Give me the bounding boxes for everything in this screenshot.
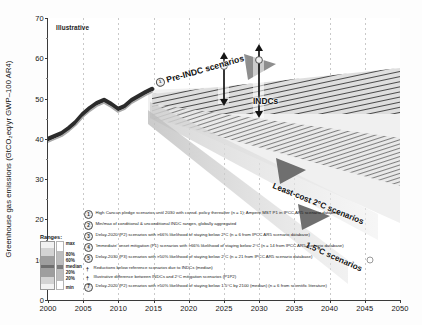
y-tick-60: 60 bbox=[35, 54, 44, 63]
ranges-gradient-swatch bbox=[40, 241, 55, 290]
footnote-text-3: Delay-2020 (P2) scenarios with >66% like… bbox=[96, 232, 310, 237]
y-tick-20: 20 bbox=[35, 215, 44, 224]
footnote-text-6: Reductions below reference scenarios due… bbox=[94, 265, 213, 270]
ranges-tick-20a: 20% bbox=[66, 270, 75, 275]
illustrative-tag: Illustrative bbox=[56, 24, 89, 31]
footnote-item: † Reductions below reference scenarios d… bbox=[84, 265, 404, 272]
x-tick-2020: 2020 bbox=[180, 304, 197, 313]
footnote-marker-6: † bbox=[84, 265, 91, 272]
x-tick-2040: 2040 bbox=[321, 304, 338, 313]
footnote-text-8: Delay-2020 (P2) scenarios with >50% like… bbox=[96, 283, 327, 288]
ranges-tick-20b: 20% bbox=[66, 276, 75, 281]
annotation-indcs-label: INDCs bbox=[253, 96, 278, 106]
footnote-text-7: Illustrative difference between INDCs an… bbox=[94, 274, 237, 279]
footnote-marker-2: 2 bbox=[84, 221, 93, 230]
x-tick-2005: 2005 bbox=[75, 304, 92, 313]
emissions-gap-chart: Greenhouse gas emissions (GtCO₂eq/yr GWP… bbox=[0, 0, 422, 325]
ranges-gradient-swatch-secondary bbox=[56, 241, 63, 290]
x-tick-2010: 2010 bbox=[110, 304, 127, 313]
footnote-text-5: Delay-2030 (P3) scenarios with >50% like… bbox=[96, 254, 313, 259]
footnote-item: 4 'Immediate' onset mitigation (P1) scen… bbox=[84, 243, 404, 252]
x-tick-2030: 2030 bbox=[251, 304, 268, 313]
footnote-marker-8: 7 bbox=[84, 283, 93, 292]
footnote-legend: 1 High Cancun pledge scenarios until 203… bbox=[84, 210, 404, 294]
footnote-item: 3 Delay-2020 (P2) scenarios with >66% li… bbox=[84, 232, 404, 241]
y-tick-50: 50 bbox=[35, 94, 44, 103]
y-axis-label: Greenhouse gas emissions (GtCO₂eq/yr GWP… bbox=[4, 61, 13, 258]
indc-range-bar-2030 bbox=[253, 44, 264, 118]
footnote-item: 2 Min/max of conditional & unconditional… bbox=[84, 221, 404, 230]
footnote-text-1: High Cancun pledge scenarios until 2030 … bbox=[96, 210, 341, 215]
y-tick-70: 70 bbox=[35, 14, 44, 23]
ranges-tick-min: min bbox=[66, 285, 74, 290]
footnote-item: 7 Delay-2020 (P2) scenarios with >50% li… bbox=[84, 283, 404, 292]
ranges-key: Ranges: max 80% 60% median 20% 20% min bbox=[40, 234, 80, 290]
footnote-text-4: 'Immediate' onset mitigation (P1) scenar… bbox=[96, 243, 344, 248]
footnote-marker-5: 5 bbox=[84, 254, 93, 263]
x-tick-2035: 2035 bbox=[286, 304, 303, 313]
footnote-item: † Illustrative difference between INDCs … bbox=[84, 274, 404, 281]
ranges-tick-median: median bbox=[66, 264, 82, 269]
footnote-marker-1: 1 bbox=[84, 210, 93, 219]
x-tick-2025: 2025 bbox=[215, 304, 232, 313]
footnote-item: 1 High Cancun pledge scenarios until 203… bbox=[84, 210, 404, 219]
footnote-item: 5 Delay-2030 (P3) scenarios with >50% li… bbox=[84, 254, 404, 263]
historical-emissions-line bbox=[48, 89, 152, 139]
x-tick-2045: 2045 bbox=[356, 304, 373, 313]
y-tick-40: 40 bbox=[35, 134, 44, 143]
ranges-tick-labels: max 80% 60% median 20% 20% min bbox=[66, 241, 80, 288]
footnote-marker-4: 4 bbox=[84, 243, 93, 252]
annotation-marker-1: 1 bbox=[155, 76, 166, 87]
ranges-key-title: Ranges: bbox=[40, 234, 80, 240]
footnote-marker-3: 3 bbox=[84, 232, 93, 241]
y-tick-30: 30 bbox=[35, 175, 44, 184]
x-tick-2015: 2015 bbox=[145, 304, 162, 313]
y-axis-label-host: Greenhouse gas emissions (GtCO₂eq/yr GWP… bbox=[10, 18, 11, 300]
ranges-tick-80: 80% bbox=[66, 252, 75, 257]
x-tick-2050: 2050 bbox=[391, 304, 408, 313]
ranges-tick-max: max bbox=[66, 241, 75, 246]
ranges-tick-60: 60% bbox=[66, 258, 75, 263]
x-tick-2000: 2000 bbox=[39, 304, 56, 313]
ranges-key-body: max 80% 60% median 20% 20% min bbox=[40, 241, 80, 290]
footnote-marker-7: † bbox=[84, 274, 91, 281]
annotation-indcs: INDCs bbox=[253, 96, 278, 106]
footnote-text-2: Min/max of conditional & unconditional I… bbox=[96, 221, 237, 226]
